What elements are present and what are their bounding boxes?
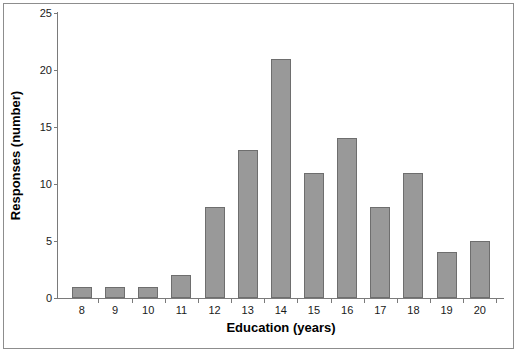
y-axis-tick-mark bbox=[54, 184, 58, 185]
x-axis-tick-label: 8 bbox=[79, 304, 85, 316]
x-axis-tick-label: 20 bbox=[474, 304, 486, 316]
bar bbox=[72, 287, 92, 298]
y-axis-tick-label: 5 bbox=[46, 235, 52, 247]
bar bbox=[171, 275, 191, 298]
bar bbox=[470, 241, 490, 298]
x-axis-tick-label: 19 bbox=[441, 304, 453, 316]
x-axis-tick-mark bbox=[331, 299, 332, 303]
y-axis-tick-mark bbox=[54, 13, 58, 14]
x-axis-tick-label: 10 bbox=[142, 304, 154, 316]
x-axis-tick-label: 17 bbox=[374, 304, 386, 316]
bar bbox=[304, 173, 324, 298]
plot-area bbox=[58, 13, 508, 298]
bar bbox=[105, 287, 125, 298]
y-axis-tick-labels: 0510152025 bbox=[24, 0, 52, 353]
x-axis-tick-mark bbox=[198, 299, 199, 303]
y-axis-tick-label: 25 bbox=[40, 7, 52, 19]
x-axis-tick-label: 11 bbox=[176, 304, 187, 316]
x-axis-tick-label: 16 bbox=[341, 304, 353, 316]
x-axis-tick-mark bbox=[132, 299, 133, 303]
bar bbox=[370, 207, 390, 298]
bar bbox=[403, 173, 423, 298]
x-axis-tick-mark bbox=[364, 299, 365, 303]
x-axis-tick-label: 15 bbox=[308, 304, 320, 316]
x-axis-title: Education (years) bbox=[58, 320, 504, 335]
x-axis-tick-mark bbox=[430, 299, 431, 303]
x-axis-tick-label: 9 bbox=[112, 304, 118, 316]
bar bbox=[238, 150, 258, 298]
x-axis-tick-mark bbox=[264, 299, 265, 303]
y-axis-tick-label: 0 bbox=[46, 292, 52, 304]
x-axis-tick-mark bbox=[463, 299, 464, 303]
bar bbox=[337, 138, 357, 298]
y-axis-tick-label: 10 bbox=[40, 178, 52, 190]
y-axis-tick-label: 20 bbox=[40, 64, 52, 76]
x-axis-tick-mark bbox=[231, 299, 232, 303]
x-axis-tick-mark bbox=[397, 299, 398, 303]
x-axis-tick-mark bbox=[496, 299, 497, 303]
x-axis-tick-label: 18 bbox=[407, 304, 419, 316]
x-axis-tick-mark bbox=[297, 299, 298, 303]
x-axis-tick-label: 14 bbox=[275, 304, 287, 316]
bar bbox=[138, 287, 158, 298]
bar bbox=[271, 59, 291, 298]
x-axis-line bbox=[58, 298, 504, 299]
y-axis-tick-mark bbox=[54, 70, 58, 71]
x-axis-tick-mark bbox=[98, 299, 99, 303]
x-axis-tick-label: 12 bbox=[208, 304, 220, 316]
y-axis-tick-label: 15 bbox=[40, 121, 52, 133]
x-axis-tick-mark bbox=[165, 299, 166, 303]
y-axis-tick-mark bbox=[54, 241, 58, 242]
bar bbox=[205, 207, 225, 298]
bar bbox=[437, 252, 457, 298]
chart-figure: Responses (number) 0510152025 Education … bbox=[0, 0, 518, 353]
y-axis-title-label: Responses (number) bbox=[9, 91, 24, 220]
y-axis-title: Responses (number) bbox=[6, 0, 26, 311]
y-axis-tick-mark bbox=[54, 127, 58, 128]
y-axis-tick-mark bbox=[54, 298, 58, 299]
x-axis-tick-label: 13 bbox=[242, 304, 254, 316]
